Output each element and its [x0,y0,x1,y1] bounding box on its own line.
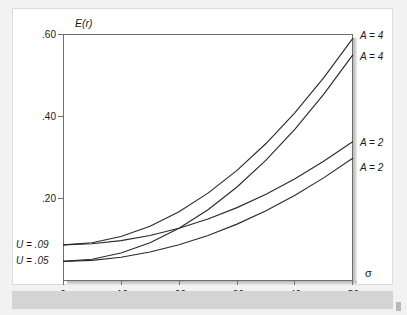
curves-svg [63,34,353,282]
curve-a4-u005 [63,55,353,262]
x-axis-title: σ [365,267,372,279]
y-axis-title: E(r) [75,17,93,29]
figure-bottom-band [12,291,393,309]
curve-label-a4-upper: A = 4 [360,30,383,41]
y-tick-label-0.20: .20 [27,193,56,204]
figure-panel: E(r) σ .60 .40 .20 U = .09 U = .05 0 .10… [12,8,393,285]
curve-label-a2-lower: A = 2 [360,162,383,173]
y-tick-label-0.40: .40 [27,111,56,122]
plot-wrapper: E(r) σ .60 .40 .20 U = .09 U = .05 0 .10… [13,9,394,286]
y-tick-label-0.60: .60 [27,29,56,40]
page-corner-marker [396,302,401,311]
curve-label-a2-upper: A = 2 [360,137,383,148]
curve-a4-u009 [63,38,353,245]
figure-root: E(r) σ .60 .40 .20 U = .09 U = .05 0 .10… [0,0,407,315]
utility-label-005: U = .05 [16,255,49,266]
curve-label-a4-lower: A = 4 [360,51,383,62]
plot-shadow-right [353,38,357,281]
utility-label-009: U = .09 [16,239,49,250]
